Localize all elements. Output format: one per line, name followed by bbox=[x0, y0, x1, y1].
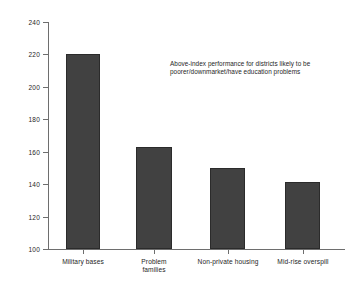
y-axis-line bbox=[48, 22, 49, 250]
y-axis-tick bbox=[43, 152, 48, 153]
x-axis-label-military-bases: Military bases bbox=[43, 258, 123, 266]
x-axis-label-mid-rise-overspill: Mid-rise overspill bbox=[262, 258, 344, 266]
x-axis-label-non-private-housing: Non-private housing bbox=[184, 258, 272, 266]
x-axis-tick bbox=[83, 249, 84, 254]
y-axis-tick-label: 220 bbox=[6, 51, 40, 58]
y-axis-tick-label: 180 bbox=[6, 116, 40, 123]
y-axis-tick bbox=[43, 217, 48, 218]
x-axis-tick bbox=[228, 249, 229, 254]
y-axis-tick bbox=[43, 184, 48, 185]
bar-problem-families[interactable] bbox=[136, 147, 172, 249]
y-axis-tick-label: 120 bbox=[6, 214, 40, 221]
y-axis-tick-label: 160 bbox=[6, 149, 40, 156]
y-axis-tick bbox=[43, 22, 48, 23]
y-axis-tick bbox=[43, 249, 48, 250]
x-axis-label-problem-families: Problem families bbox=[119, 258, 189, 274]
y-axis-tick-label: 200 bbox=[6, 84, 40, 91]
bar-mid-rise-overspill[interactable] bbox=[285, 182, 320, 249]
y-axis-tick bbox=[43, 87, 48, 88]
x-axis-tick bbox=[303, 249, 304, 254]
x-axis-line bbox=[48, 249, 345, 250]
bar-military-bases[interactable] bbox=[66, 54, 100, 249]
y-axis-tick bbox=[43, 119, 48, 120]
y-axis-tick-label: 100 bbox=[6, 246, 40, 253]
y-axis-tick-label: 140 bbox=[6, 181, 40, 188]
y-axis-tick-label: 240 bbox=[6, 19, 40, 26]
bar-non-private-housing[interactable] bbox=[210, 168, 245, 249]
bar-chart: 240 220 200 180 160 140 120 100 Military… bbox=[0, 0, 359, 285]
y-axis-tick bbox=[43, 54, 48, 55]
x-axis-tick bbox=[154, 249, 155, 254]
chart-annotation: Above-index performance for districts li… bbox=[170, 60, 350, 77]
